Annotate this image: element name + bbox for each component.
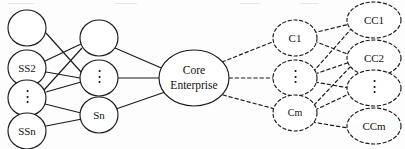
customer-column: C1 ⋮ Cm (273, 20, 317, 131)
node-ss1[interactable] (8, 10, 46, 46)
node-cm-label: Cm (288, 107, 303, 118)
edge-core-cm (223, 95, 275, 109)
edge-cm-cc2 (314, 66, 351, 105)
edge-cm-ccdots (315, 94, 349, 110)
node-ss-ellipsis-label: ⋮ (20, 88, 35, 104)
node-ccm[interactable]: CCm (347, 108, 401, 144)
edge-s1-core (115, 48, 166, 70)
node-ss1-shape[interactable] (8, 10, 46, 46)
sub-supplier-column: SS2 ⋮ SSn (8, 10, 46, 149)
edge-cdots-cc1 (313, 28, 352, 72)
node-ssn-label: SSn (18, 125, 36, 137)
node-ccm-label: CCm (362, 120, 386, 132)
node-s-ellipsis[interactable]: ⋮ (80, 60, 118, 96)
node-cc-ellipsis[interactable]: ⋮ (347, 70, 401, 106)
edge-sn-core (116, 91, 168, 109)
edge-ssdots-sn (45, 104, 81, 113)
node-cc2-label: CC2 (364, 52, 384, 64)
node-s1[interactable] (80, 20, 118, 56)
edge-cdots-ccdots (315, 82, 349, 88)
edge-ss2-sdots (46, 72, 80, 78)
edge-ssdots-sdots (46, 82, 81, 92)
node-s1-shape[interactable] (80, 20, 118, 56)
node-s-ellipsis-label: ⋮ (92, 68, 107, 84)
core-enterprise-label-line1: Core (183, 64, 205, 76)
network-graph: SS2 ⋮ SSn ⋮ Sn (0, 0, 405, 149)
supplier-column: ⋮ Sn (80, 20, 118, 133)
node-cc1-label: CC1 (364, 14, 384, 26)
edge-c1-cc2 (314, 41, 350, 55)
node-c-ellipsis[interactable]: ⋮ (273, 60, 317, 96)
node-sn[interactable]: Sn (80, 97, 118, 133)
node-c1-label: C1 (289, 32, 302, 44)
edge-cm-ccm (312, 122, 348, 128)
edge-ssn-sn (46, 119, 82, 126)
diagram-canvas: SS2 ⋮ SSn ⋮ Sn (0, 0, 405, 149)
node-ss2-label: SS2 (18, 62, 36, 74)
node-c-ellipsis-label: ⋮ (288, 68, 303, 84)
node-sn-label: Sn (93, 109, 105, 121)
edge-ss2-s1 (45, 44, 81, 61)
node-ssn[interactable]: SSn (8, 113, 46, 149)
edge-c1-cc1 (313, 24, 350, 33)
node-cc1[interactable]: CC1 (347, 2, 401, 38)
core-enterprise-node[interactable]: Core Enterprise (159, 50, 229, 106)
node-ss-ellipsis[interactable]: ⋮ (8, 80, 46, 116)
edge-core-c1 (222, 41, 275, 62)
end-customer-column: CC1 CC2 ⋮ CCm (347, 2, 401, 144)
core-enterprise-label-line2: Enterprise (170, 79, 217, 92)
node-cm[interactable]: Cm (273, 95, 317, 131)
node-cc-ellipsis-label: ⋮ (367, 78, 382, 94)
node-c1[interactable]: C1 (273, 20, 317, 56)
